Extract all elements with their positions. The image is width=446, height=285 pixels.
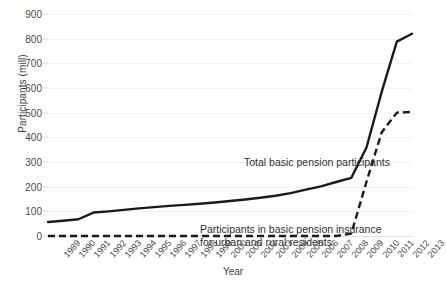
series-layer [48, 14, 412, 236]
y-tick-label-500: 500 [25, 107, 42, 118]
y-tick-label-600: 600 [25, 83, 42, 94]
y-tick-label-400: 400 [25, 132, 42, 143]
y-tick-label-900: 900 [25, 9, 42, 20]
annotation-total-basic-pension: Total basic pension participants [244, 156, 390, 169]
series-line-urban-rural-residents [48, 112, 412, 236]
plot-area: 0100200300400500600700800900 19891990199… [48, 14, 412, 236]
x-axis-title: Year [0, 266, 424, 277]
y-tick-label-200: 200 [25, 181, 42, 192]
y-tick-label-700: 700 [25, 58, 42, 69]
y-tick-label-800: 800 [25, 33, 42, 44]
y-tick-label-100: 100 [25, 206, 42, 217]
y-tick-label-0: 0 [36, 231, 42, 242]
y-tick-label-300: 300 [25, 157, 42, 168]
annotation-urban-rural-residents: Participants in basic pension insurance … [200, 223, 390, 248]
series-line-total-basic-pension [48, 34, 412, 222]
